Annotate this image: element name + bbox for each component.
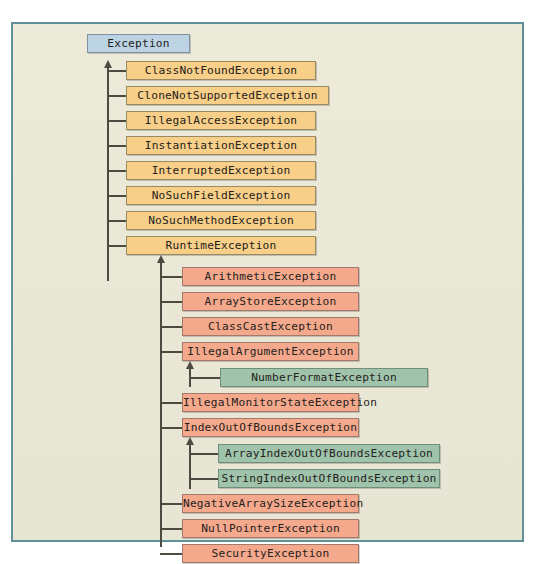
connector-stub: [189, 478, 218, 480]
class-box-arrayindexoutofboundsexception[interactable]: ArrayIndexOutOfBoundsException: [218, 444, 440, 463]
inheritance-arrow-illegalargumentexception: [186, 361, 194, 369]
connector-stub: [189, 377, 220, 379]
class-box-instantiationexception[interactable]: InstantiationException: [126, 136, 316, 155]
class-box-interruptedexception[interactable]: InterruptedException: [126, 161, 316, 180]
class-box-securityexception[interactable]: SecurityException: [182, 544, 359, 563]
connector-stub: [107, 95, 126, 97]
connector-stub: [107, 195, 126, 197]
connector-trunk-indexoutofboundsexception: [189, 445, 191, 489]
class-box-arraystoreexception[interactable]: ArrayStoreException: [182, 292, 359, 311]
class-box-runtimeexception[interactable]: RuntimeException: [126, 236, 316, 255]
inheritance-arrow-runtimeexception: [157, 255, 165, 263]
connector-stub: [189, 453, 218, 455]
inheritance-arrow-exception: [104, 60, 112, 68]
connector-stub: [160, 427, 182, 429]
diagram-canvas: Exception ClassNotFoundException CloneNo…: [11, 22, 524, 542]
exception-hierarchy-diagram: Exception ClassNotFoundException CloneNo…: [0, 0, 536, 564]
class-box-nosuchfieldexception[interactable]: NoSuchFieldException: [126, 186, 316, 205]
connector-stub: [107, 70, 126, 72]
class-box-classnotfoundexception[interactable]: ClassNotFoundException: [126, 61, 316, 80]
class-box-indexoutofboundsexception[interactable]: IndexOutOfBoundsException: [182, 418, 359, 437]
connector-stub: [160, 402, 182, 404]
inheritance-arrow-indexoutofboundsexception: [186, 437, 194, 445]
class-box-illegalmonitorstateexception[interactable]: IllegalMonitorStateException: [182, 393, 359, 412]
class-box-illegalargumentexception[interactable]: IllegalArgumentException: [182, 342, 359, 361]
connector-stub: [160, 326, 182, 328]
class-box-numberformatexception[interactable]: NumberFormatException: [220, 368, 428, 387]
class-box-classcastexception[interactable]: ClassCastException: [182, 317, 359, 336]
connector-stub: [107, 170, 126, 172]
connector-stub: [107, 120, 126, 122]
class-box-nullpointerexception[interactable]: NullPointerException: [182, 519, 359, 538]
class-box-clonenotsupportedexception[interactable]: CloneNotSupportedException: [126, 86, 329, 105]
class-box-nosuchmethodexception[interactable]: NoSuchMethodException: [126, 211, 316, 230]
connector-stub: [160, 528, 182, 530]
class-box-illegalaccessexception[interactable]: IllegalAccessException: [126, 111, 316, 130]
connector-stub: [160, 351, 182, 353]
connector-stub: [107, 220, 126, 222]
class-box-exception[interactable]: Exception: [87, 34, 190, 53]
connector-trunk-exception: [107, 68, 109, 281]
class-box-arithmeticexception[interactable]: ArithmeticException: [182, 267, 359, 286]
class-box-negativearraysizeexception[interactable]: NegativeArraySizeException: [182, 494, 359, 513]
connector-stub: [107, 245, 126, 247]
connector-stub: [160, 553, 182, 555]
connector-stub: [160, 503, 182, 505]
connector-stub: [107, 145, 126, 147]
connector-stub: [160, 301, 182, 303]
connector-stub: [160, 276, 182, 278]
class-box-stringindexoutofboundsexception[interactable]: StringIndexOutOfBoundsException: [218, 469, 440, 488]
